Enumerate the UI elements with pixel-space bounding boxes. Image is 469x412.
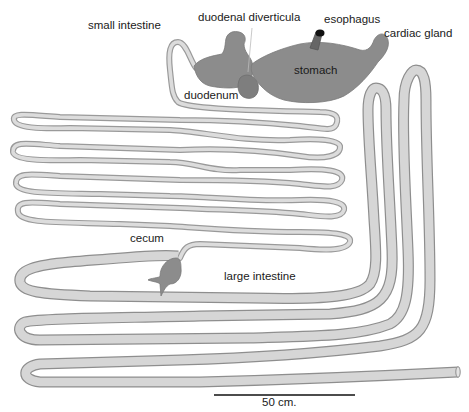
digestive-tract-diagram xyxy=(0,0,469,412)
label-duodenum: duodenum xyxy=(184,90,238,102)
cecum xyxy=(148,258,181,296)
large-intestine-end-cap xyxy=(456,367,460,378)
label-large-intestine: large intestine xyxy=(224,271,296,283)
esophagus-opening xyxy=(316,29,325,36)
scale-bar-label: 50 cm. xyxy=(262,397,297,409)
label-duodenal-diverticula: duodenal diverticula xyxy=(198,12,300,24)
cecum-shape xyxy=(148,258,181,296)
label-esophagus: esophagus xyxy=(324,14,380,26)
label-cecum: cecum xyxy=(130,233,164,245)
label-cardiac-gland: cardiac gland xyxy=(384,28,452,40)
label-small-intestine: small intestine xyxy=(88,20,161,32)
label-stomach: stomach xyxy=(294,65,337,77)
